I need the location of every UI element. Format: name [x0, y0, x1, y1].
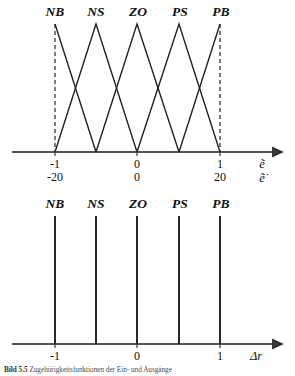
fuzzy-membership-figure: NB NS ZO PS PB -1 0 1 -20 0 20 ẽ ẽ̇ [0, 0, 295, 376]
bottom-ticklabel-0: 0 [134, 349, 140, 363]
top-label-zo: ZO [128, 4, 147, 19]
top-ticklabel-phys-20: 20 [214, 170, 226, 184]
mf-ns-triangle [55, 24, 137, 152]
top-ticklabel-phys-0: 0 [134, 170, 140, 184]
top-axis-label-edot: ẽ̇ [259, 171, 269, 185]
bottom-ticklabel-1: 1 [217, 349, 223, 363]
top-label-ps: PS [172, 4, 188, 19]
bottom-label-pb: PB [212, 196, 229, 211]
figure-caption-text: Zugehörigkeitsfunktionen der Ein- und Au… [29, 366, 172, 374]
top-axis-label-e: ẽ [259, 157, 265, 171]
figure-caption-label: Bild 5.5 [4, 366, 28, 374]
top-ticklabel-phys--20: -20 [47, 170, 63, 184]
top-label-ns: NS [86, 4, 104, 19]
bottom-x-axis-arrowhead [272, 339, 284, 350]
top-ticklabel-norm-1: 1 [217, 157, 223, 171]
bottom-ticklabel--1: -1 [50, 349, 60, 363]
top-ticklabel-norm--1: -1 [50, 157, 60, 171]
top-ticklabel-norm-0: 0 [134, 157, 140, 171]
bottom-label-ns: NS [86, 196, 104, 211]
bottom-axis-label-deltar: Δr [249, 349, 262, 363]
bottom-label-zo: ZO [128, 196, 147, 211]
bottom-label-ps: PS [172, 196, 188, 211]
top-label-nb: NB [45, 4, 65, 19]
top-chart: NB NS ZO PS PB -1 0 1 -20 0 20 ẽ ẽ̇ [12, 4, 284, 185]
bottom-chart: NB NS ZO PS PB -1 0 1 Δr [12, 196, 284, 363]
figure-caption: Bild 5.5 Zugehörigkeitsfunktionen der Ei… [4, 366, 292, 375]
mf-zo-triangle [96, 24, 179, 152]
bottom-label-nb: NB [45, 196, 65, 211]
top-x-axis-arrowhead [272, 147, 284, 158]
top-label-pb: PB [212, 4, 229, 19]
figure-canvas: NB NS ZO PS PB -1 0 1 -20 0 20 ẽ ẽ̇ [0, 0, 295, 366]
mf-ps-triangle [137, 24, 220, 152]
